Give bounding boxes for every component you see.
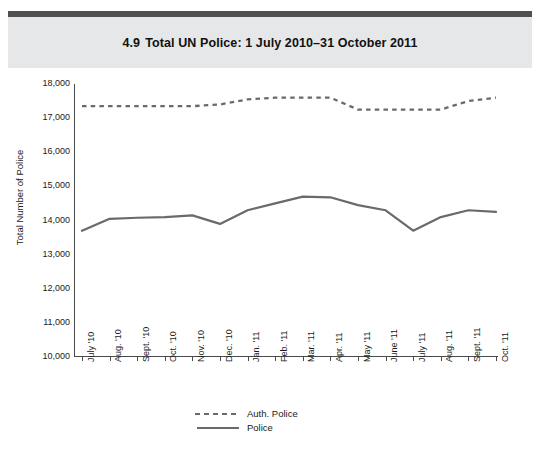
x-tick-mark — [386, 356, 387, 361]
x-tick-label: Aug. '11 — [444, 330, 454, 362]
x-tick-mark — [303, 356, 304, 361]
y-tick-label: 18,000 — [24, 79, 70, 88]
figure-number: 4.9 — [122, 36, 140, 50]
y-tick-label: 16,000 — [24, 147, 70, 156]
legend-swatch-dashed — [195, 409, 239, 419]
chart-legend: Auth. Police Police — [0, 408, 540, 433]
header-band: 4.9Total UN Police: 1 July 2010–31 Octob… — [8, 17, 532, 68]
legend-swatch-solid — [195, 423, 239, 433]
y-tick-label: 12,000 — [24, 284, 70, 293]
y-tick-label: 17,000 — [24, 113, 70, 122]
x-tick-mark — [137, 356, 138, 361]
x-tick-mark — [110, 356, 111, 361]
x-tick-mark — [248, 356, 249, 361]
series-line-auth-police — [82, 98, 496, 110]
x-tick-mark — [275, 356, 276, 361]
x-tick-label: Dec. '10 — [224, 329, 234, 362]
chart-container: Total Number of Police 18,00017,00016,00… — [0, 72, 540, 372]
x-tick-mark — [496, 356, 497, 361]
x-tick-label: Sept. '10 — [141, 327, 151, 362]
x-tick-mark — [441, 356, 442, 361]
x-tick-label: Mar. '11 — [306, 331, 316, 362]
x-tick-label: June '11 — [389, 329, 399, 362]
y-axis-tick-labels: 18,00017,00016,00015,00014,00013,00012,0… — [16, 72, 70, 372]
x-tick-mark — [82, 356, 83, 361]
x-tick-mark — [192, 356, 193, 361]
figure-title-text: Total UN Police: 1 July 2010–31 October … — [145, 36, 417, 50]
plot-area — [74, 72, 498, 372]
x-tick-mark — [358, 356, 359, 361]
x-tick-label: July '10 — [86, 332, 96, 362]
y-tick-label: 14,000 — [24, 216, 70, 225]
x-tick-label: July '11 — [417, 332, 427, 362]
series-lines — [74, 72, 498, 372]
x-tick-mark — [330, 356, 331, 361]
x-tick-label: Feb. '11 — [279, 330, 289, 362]
x-tick-mark — [468, 356, 469, 361]
x-tick-label: Oct. '11 — [500, 332, 510, 362]
x-tick-label: Apr. '11 — [334, 332, 344, 362]
x-tick-mark — [165, 356, 166, 361]
y-tick-label: 10,000 — [24, 352, 70, 361]
x-tick-label: Oct. '10 — [168, 331, 178, 362]
x-tick-label: Aug. '10 — [113, 329, 123, 362]
y-tick-label: 11,000 — [24, 318, 70, 327]
legend-label-auth-police: Auth. Police — [247, 408, 298, 419]
legend-item-police: Police — [195, 422, 345, 433]
page-title: 4.9Total UN Police: 1 July 2010–31 Octob… — [122, 36, 417, 50]
x-tick-mark — [413, 356, 414, 361]
x-tick-label: Nov. '10 — [196, 330, 206, 362]
legend-label-police: Police — [247, 422, 273, 433]
y-tick-label: 15,000 — [24, 181, 70, 190]
x-tick-label: Sept. '11 — [472, 327, 482, 362]
y-tick-label: 13,000 — [24, 250, 70, 259]
series-line-police — [82, 197, 496, 231]
legend-item-auth-police: Auth. Police — [195, 408, 345, 419]
x-tick-label: Jan. '11 — [251, 331, 261, 362]
x-tick-label: May '11 — [362, 331, 372, 362]
x-tick-mark — [220, 356, 221, 361]
figure-page: 4.9Total UN Police: 1 July 2010–31 Octob… — [0, 0, 540, 458]
